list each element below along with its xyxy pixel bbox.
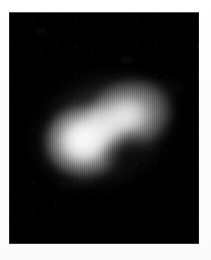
- object-bright-core: [61, 122, 105, 162]
- image-plate[interactable]: [9, 12, 199, 244]
- object-secondary-core: [109, 100, 145, 132]
- bilobed-luminous-object: [9, 12, 199, 244]
- page-canvas: [0, 0, 211, 260]
